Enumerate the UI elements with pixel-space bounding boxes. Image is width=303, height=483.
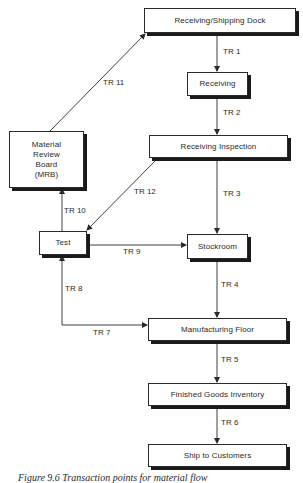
node-material-review-board: Material Review Board (MRB) — [9, 131, 84, 188]
node-test: Test — [39, 231, 87, 255]
node-finished-goods-inventory: Finished Goods Inventory — [148, 383, 287, 406]
edge-label-tr12: TR 12 — [134, 187, 156, 196]
node-label-line: Board — [36, 160, 58, 170]
node-label-line: Review — [33, 150, 60, 160]
node-label: Receiving Inspection — [181, 142, 257, 152]
node-label: Receiving — [199, 79, 235, 89]
node-label: Test — [55, 238, 70, 248]
node-label-line: Material — [32, 140, 61, 150]
edge-label-tr4: TR 4 — [221, 280, 238, 289]
edge-tr11 — [50, 34, 145, 131]
edge-label-tr3: TR 3 — [223, 189, 240, 198]
edge-label-tr11: TR 11 — [103, 78, 124, 87]
node-receiving: Receiving — [187, 72, 248, 96]
node-manufacturing-floor: Manufacturing Floor — [148, 318, 287, 341]
edge-label-tr5: TR 5 — [221, 355, 238, 364]
node-label: Stockroom — [198, 242, 237, 252]
node-label: Finished Goods Inventory — [171, 390, 265, 400]
node-label: Receiving/Shipping Dock — [174, 16, 265, 26]
node-ship-to-customers: Ship to Customers — [148, 444, 287, 467]
edge-label-tr8: TR 8 — [65, 284, 82, 293]
edge-label-tr9: TR 9 — [123, 247, 140, 256]
figure-caption: Figure 9.6 Transaction points for materi… — [18, 472, 207, 483]
node-label: Ship to Customers — [184, 451, 252, 461]
node-receiving-shipping-dock: Receiving/Shipping Dock — [144, 8, 296, 33]
edge-label-tr1: TR 1 — [223, 47, 240, 56]
node-stockroom: Stockroom — [187, 234, 248, 259]
node-label: Manufacturing Floor — [181, 325, 254, 335]
edge-label-tr2: TR 2 — [223, 108, 240, 117]
node-label-line: (MRB) — [35, 170, 59, 180]
node-receiving-inspection: Receiving Inspection — [149, 135, 288, 158]
edge-label-tr6: TR 6 — [221, 418, 238, 427]
edge-label-tr7: TR 7 — [93, 328, 110, 337]
edge-label-tr10: TR 10 — [64, 206, 86, 215]
